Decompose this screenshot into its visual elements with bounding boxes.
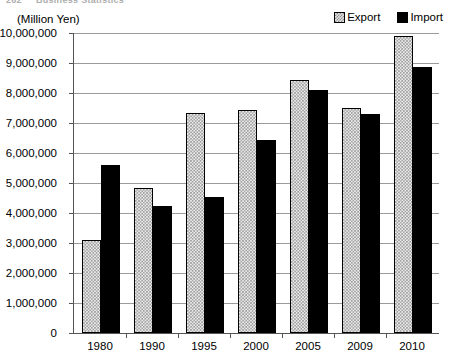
x-axis-tick-label: 2009 <box>334 340 386 352</box>
y-axis-tick <box>69 63 74 64</box>
y-axis-tick <box>69 93 74 94</box>
x-axis-tick <box>230 333 231 338</box>
x-axis-tick <box>178 333 179 338</box>
y-axis-tick-label: 10,000,000 <box>0 27 57 39</box>
plot-area: 10,000,0009,000,0008,000,0007,000,0006,0… <box>73 33 439 334</box>
bar-import[interactable] <box>309 90 328 333</box>
bar-group <box>283 33 335 333</box>
bar-group <box>231 33 283 333</box>
x-axis-tick-label: 1990 <box>126 340 178 352</box>
running-header-number: 262 <box>6 0 22 4</box>
bar-import[interactable] <box>257 140 276 333</box>
legend-label-export: Export <box>347 11 380 23</box>
y-axis-tick-label: 9,000,000 <box>0 57 57 69</box>
y-axis-tick <box>69 183 74 184</box>
bar-group <box>75 33 127 333</box>
bar-import[interactable] <box>101 165 120 333</box>
running-header-title: Business Statistics <box>36 0 124 4</box>
x-axis-tick-label: 2005 <box>282 340 334 352</box>
legend-item-export: Export <box>334 11 380 23</box>
y-axis-unit-label: (Million Yen) <box>17 13 80 25</box>
y-axis-tick-label: 3,000,000 <box>0 237 57 249</box>
legend-item-import: Import <box>397 11 443 23</box>
x-axis-tick <box>386 333 387 338</box>
x-axis-labels: 1980199019952000200520092010 <box>74 340 438 352</box>
bar-export[interactable] <box>342 108 361 333</box>
bar-groups <box>75 33 439 333</box>
legend-swatch-export-icon <box>334 12 345 23</box>
y-axis-tick-label: 2,000,000 <box>0 267 57 279</box>
y-axis-tick <box>69 213 74 214</box>
chart-legend: Export Import <box>334 11 443 23</box>
y-axis-tick-label: 7,000,000 <box>0 117 57 129</box>
bar-export[interactable] <box>186 113 205 334</box>
bar-import[interactable] <box>205 197 224 334</box>
y-axis-tick <box>69 33 74 34</box>
x-axis-tick <box>334 333 335 338</box>
bar-export[interactable] <box>290 80 309 333</box>
y-axis-tick-label: 8,000,000 <box>0 87 57 99</box>
y-axis-tick-label: 0 <box>0 327 57 339</box>
bar-import[interactable] <box>153 206 172 333</box>
y-axis-tick-label: 4,000,000 <box>0 207 57 219</box>
y-axis-tick <box>69 273 74 274</box>
legend-swatch-import-icon <box>397 12 408 23</box>
y-axis-tick-label: 6,000,000 <box>0 147 57 159</box>
bar-import[interactable] <box>361 114 380 333</box>
y-axis-tick <box>69 243 74 244</box>
bar-export[interactable] <box>394 36 413 333</box>
y-axis-tick-label: 1,000,000 <box>0 297 57 309</box>
x-axis-tick <box>126 333 127 338</box>
bar-export[interactable] <box>238 110 257 333</box>
legend-label-import: Import <box>410 11 443 23</box>
x-axis-tick-label: 1980 <box>74 340 126 352</box>
bar-export[interactable] <box>134 188 153 333</box>
x-axis-tick <box>282 333 283 338</box>
running-header: 262Business Statistics <box>6 0 124 4</box>
bar-import[interactable] <box>413 67 432 333</box>
y-axis-tick <box>69 123 74 124</box>
chart-page: 262Business Statistics (Million Yen) Exp… <box>0 0 451 363</box>
bar-group <box>127 33 179 333</box>
y-axis-tick <box>69 303 74 304</box>
y-axis-tick <box>69 333 74 334</box>
bar-group <box>179 33 231 333</box>
bar-group <box>335 33 387 333</box>
y-axis-tick <box>69 153 74 154</box>
bar-group <box>387 33 439 333</box>
bar-export[interactable] <box>82 240 101 333</box>
x-axis-tick-label: 2010 <box>386 340 438 352</box>
y-axis-tick-label: 5,000,000 <box>0 177 57 189</box>
x-axis-tick-label: 1995 <box>178 340 230 352</box>
x-axis-tick-label: 2000 <box>230 340 282 352</box>
